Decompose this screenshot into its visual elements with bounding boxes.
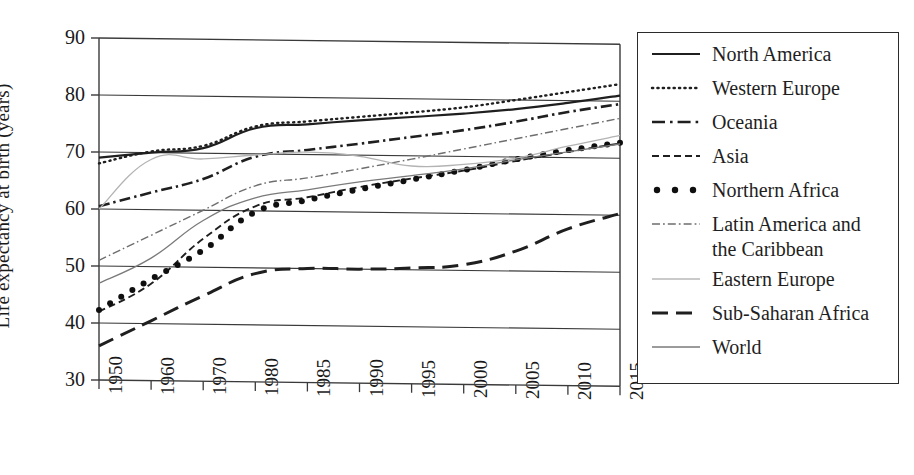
thin-light-line-sample [650, 266, 704, 292]
legend-item-label: North America [712, 41, 831, 67]
legend-item-label: Northern Africa [712, 177, 839, 203]
axis-ticks [91, 38, 620, 395]
gridlines [99, 38, 620, 386]
legend-item[interactable]: Sub-Saharan Africa [650, 300, 890, 330]
data-series-group [96, 84, 623, 346]
legend-item[interactable]: Western Europe [650, 75, 890, 105]
legend-item-label: Latin America and the Caribbean [712, 211, 890, 262]
thin-line-sample [650, 334, 704, 360]
solid-line-sample [650, 41, 704, 67]
life-expectancy-chart-figure: Life expectancy at birth (years) 9080706… [0, 0, 914, 475]
series-northern-africa [96, 140, 623, 313]
legend-item[interactable]: Oceania [650, 109, 890, 139]
legend-item-label: Oceania [712, 109, 778, 135]
legend-items: North AmericaWestern EuropeOceaniaAsiaNo… [650, 41, 890, 368]
legend-item[interactable]: Eastern Europe [650, 266, 890, 296]
legend-item-label: Western Europe [712, 75, 840, 101]
legend-item[interactable]: Asia [650, 143, 890, 173]
series-asia [99, 143, 620, 311]
legend-item-label: World [712, 334, 762, 360]
dot-marker-sample [650, 177, 704, 203]
series-north-america [99, 96, 620, 158]
legend-item[interactable]: Northern Africa [650, 177, 890, 207]
dash-dot-line-sample [650, 109, 704, 135]
legend-item-label: Sub-Saharan Africa [712, 300, 869, 326]
dashed-line-sample [650, 143, 704, 169]
legend: North AmericaWestern EuropeOceaniaAsiaNo… [637, 32, 899, 384]
dotted-line-sample [650, 75, 704, 101]
legend-item[interactable]: Latin America and the Caribbean [650, 211, 890, 262]
fine-dash-dot-line-sample [650, 211, 704, 237]
legend-item[interactable]: North America [650, 41, 890, 71]
legend-item[interactable]: World [650, 334, 890, 364]
legend-item-label: Eastern Europe [712, 266, 835, 292]
long-dash-line-sample [650, 300, 704, 326]
series-eastern-europe [99, 135, 620, 209]
legend-item-label: Asia [712, 143, 749, 169]
